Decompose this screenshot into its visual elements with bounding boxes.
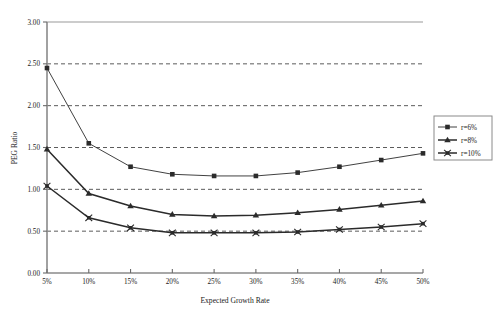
x-tick-label: 50%	[416, 278, 429, 286]
x-axis-title: Expected Growth Rate	[200, 296, 270, 305]
y-tick-label: 0.00	[27, 270, 40, 278]
y-tick-label: 3.00	[27, 19, 40, 27]
x-tick-label: 5%	[42, 278, 52, 286]
legend: r=6%r=8%r=10%	[434, 116, 492, 160]
y-tick-label: 1.00	[27, 186, 40, 194]
data-point-square	[295, 170, 300, 175]
data-point-square	[421, 151, 426, 156]
x-tick-label: 10%	[82, 278, 95, 286]
x-tick-label: 40%	[333, 278, 346, 286]
y-tick-label: 2.50	[27, 60, 40, 68]
legend-label: r=10%	[461, 150, 481, 158]
data-point-square	[254, 174, 259, 179]
legend-label: r=8%	[461, 137, 477, 145]
y-tick-label: 2.00	[27, 102, 40, 110]
x-tick-label: 20%	[166, 278, 179, 286]
chart-background	[0, 0, 496, 317]
data-point-square	[337, 164, 342, 169]
data-point-square	[212, 174, 217, 179]
y-tick-label: 1.50	[27, 144, 40, 152]
x-tick-label: 25%	[208, 278, 221, 286]
data-point-square	[86, 141, 91, 146]
data-point-square	[128, 164, 133, 169]
y-axis-title: PEG Ratio	[10, 131, 19, 164]
data-point-square	[170, 172, 175, 177]
chart-figure: 0.000.501.001.502.002.503.00 5%10%15%20%…	[0, 0, 496, 317]
x-tick-label: 30%	[249, 278, 262, 286]
legend-label: r=6%	[461, 124, 477, 132]
y-tick-label: 0.50	[27, 228, 40, 236]
x-tick-label: 35%	[291, 278, 304, 286]
data-point-square	[45, 66, 50, 71]
data-point-square	[445, 125, 450, 130]
peg-ratio-line-chart: 0.000.501.001.502.002.503.00 5%10%15%20%…	[0, 0, 496, 317]
data-point-square	[379, 158, 384, 163]
x-tick-label: 15%	[124, 278, 137, 286]
x-tick-label: 45%	[375, 278, 388, 286]
